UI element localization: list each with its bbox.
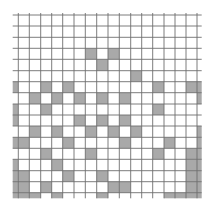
shaded-cell — [18, 182, 29, 193]
shaded-cell — [164, 137, 175, 148]
shaded-cell — [41, 82, 52, 93]
shaded-cell — [131, 126, 142, 137]
shaded-cell — [175, 193, 186, 199]
shaded-cell — [18, 193, 29, 199]
shaded-cell — [197, 171, 202, 182]
shaded-cell — [97, 59, 108, 70]
shaded-cell — [186, 148, 197, 159]
shaded-cell — [108, 126, 119, 137]
shaded-cell — [74, 115, 85, 126]
shaded-cell — [13, 193, 19, 199]
shaded-cell — [29, 193, 40, 199]
shaded-cell — [153, 104, 164, 115]
shaded-cell — [108, 48, 119, 59]
shaded-cell — [197, 137, 202, 148]
shaded-grid — [0, 0, 215, 213]
shaded-cell — [74, 93, 85, 104]
shaded-cell — [164, 193, 175, 199]
shaded-cell — [41, 182, 52, 193]
shaded-cell — [131, 71, 142, 82]
shaded-cell — [41, 148, 52, 159]
shaded-cell — [13, 104, 19, 115]
shaded-cell — [18, 171, 29, 182]
shaded-cell — [97, 171, 108, 182]
shaded-cell — [18, 137, 29, 148]
shaded-cell — [108, 182, 119, 193]
shaded-cell — [186, 82, 197, 93]
shaded-cell — [197, 159, 202, 170]
shaded-cell — [13, 159, 19, 170]
shaded-cell — [197, 193, 202, 199]
shaded-cell — [13, 182, 19, 193]
shaded-cell — [13, 82, 19, 93]
shaded-cell — [13, 137, 19, 148]
shaded-cell — [97, 115, 108, 126]
shaded-cell — [29, 93, 40, 104]
grid-lines — [13, 13, 202, 198]
shaded-cell — [41, 104, 52, 115]
shaded-cell — [119, 115, 130, 126]
shaded-cell — [52, 193, 63, 199]
shaded-cell — [186, 171, 197, 182]
shaded-cell — [197, 126, 202, 137]
shaded-cell — [119, 93, 130, 104]
shaded-cell — [52, 93, 63, 104]
shaded-cell — [85, 126, 96, 137]
shaded-cell — [197, 93, 202, 104]
shaded-cell — [97, 93, 108, 104]
shaded-cell — [186, 193, 197, 199]
shaded-cell — [186, 182, 197, 193]
shaded-cell — [119, 182, 130, 193]
shaded-cell — [153, 82, 164, 93]
shaded-cell — [52, 126, 63, 137]
shaded-cell — [63, 171, 74, 182]
shaded-cell — [29, 126, 40, 137]
shaded-cell — [52, 159, 63, 170]
shaded-cell — [85, 48, 96, 59]
shaded-cell — [197, 182, 202, 193]
shaded-cell — [197, 82, 202, 93]
shaded-cell — [197, 148, 202, 159]
shaded-cell — [13, 171, 19, 182]
shaded-cell — [13, 115, 19, 126]
shaded-cell — [186, 159, 197, 170]
shaded-cell — [153, 148, 164, 159]
shaded-cell — [97, 193, 108, 199]
shaded-cell — [119, 137, 130, 148]
shaded-cell — [85, 148, 96, 159]
shaded-cell — [63, 82, 74, 93]
shaded-cell — [63, 137, 74, 148]
